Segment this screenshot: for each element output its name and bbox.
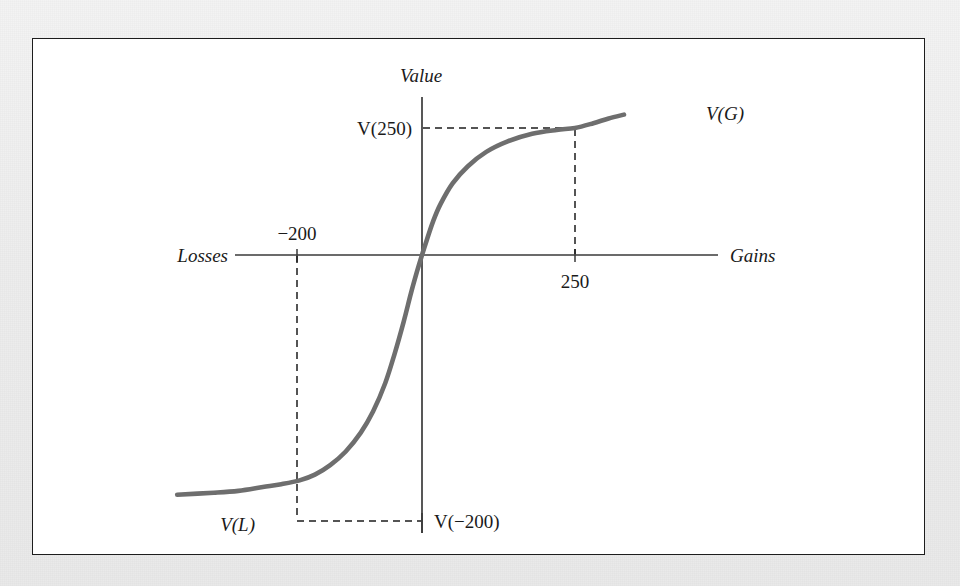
figure-page: Value Gains Losses −200 250 V(250) V(−20… xyxy=(0,0,960,586)
y-value-label-v-minus-200: V(−200) xyxy=(434,511,500,533)
y-axis-label: Value xyxy=(400,65,442,86)
y-value-label-v250: V(250) xyxy=(357,118,412,140)
axes-group xyxy=(235,97,718,533)
value-function-chart: Value Gains Losses −200 250 V(250) V(−20… xyxy=(0,0,960,586)
reference-lines-group xyxy=(297,128,577,521)
x-axis-label-gains: Gains xyxy=(730,245,775,266)
value-function-curve xyxy=(177,115,624,495)
gain-curve-label-vg: V(G) xyxy=(706,103,744,125)
x-tick-label-250: 250 xyxy=(561,271,590,292)
x-axis-label-losses: Losses xyxy=(176,245,228,266)
loss-curve-label-vl: V(L) xyxy=(220,514,255,536)
x-tick-label-minus-200: −200 xyxy=(277,223,316,244)
